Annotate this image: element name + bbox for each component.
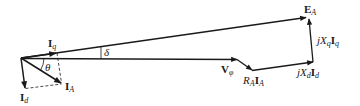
label-EA: EA: [304, 3, 316, 17]
label-IA: IA: [65, 80, 74, 94]
label-jXqIq: jXqIq: [315, 34, 339, 48]
phasor-IA: [21, 58, 61, 83]
dashed-projection-d: [26, 84, 62, 89]
phasor-RAIA: [237, 60, 252, 71]
phasor-Id: [21, 58, 25, 88]
phasor-jXqIq: [309, 19, 313, 62]
dashed-projection-q: [57, 53, 62, 83]
phasor-EA: [21, 18, 306, 59]
phasor-Vphi: [21, 59, 237, 60]
label-Id: Id: [20, 91, 29, 105]
phasor-diagram: EA Vφ Iq Id IA RAIA jXdId jXqIq δ θ: [0, 0, 360, 106]
label-theta: θ: [45, 61, 51, 73]
label-delta: δ: [104, 46, 110, 58]
label-RAIA: RAIA: [242, 74, 264, 88]
label-jXdId: jXdId: [295, 66, 320, 80]
label-Vphi: Vφ: [221, 63, 234, 77]
phasor-Iq: [21, 53, 56, 58]
theta-angle-arc: [41, 58, 45, 70]
label-Iq: Iq: [48, 37, 56, 51]
